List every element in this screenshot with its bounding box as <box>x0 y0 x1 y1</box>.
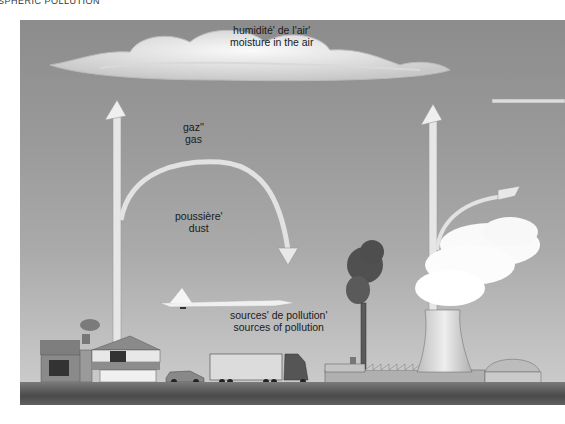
gas-label: gaz'' gas <box>183 121 204 145</box>
ground <box>20 382 565 405</box>
dust-label-fr: poussière' <box>175 210 223 222</box>
dome-building <box>485 359 541 384</box>
truck <box>210 354 308 385</box>
house-smoke <box>80 319 100 331</box>
page-title: SPHERIC POLLUTION <box>0 0 100 6</box>
house <box>40 317 160 382</box>
gas-label-fr: gaz'' <box>183 121 204 133</box>
sources-label-en: sources of pollution <box>230 321 327 333</box>
sources-label-fr: sources' de pollution' <box>230 309 327 321</box>
moisture-label: humidité' de l'air' moisture in the air <box>230 24 313 48</box>
airplane <box>160 288 295 309</box>
dust-label: poussière' dust <box>175 210 223 234</box>
cooling-tower <box>417 310 472 372</box>
factory-chimney <box>346 240 384 373</box>
offscreen-arrow-icon <box>492 99 565 103</box>
diagram-illustration <box>20 20 565 405</box>
sources-label: sources' de pollution' sources of pollut… <box>230 309 327 333</box>
gas-label-en: gas <box>183 133 204 145</box>
moisture-label-fr: humidité' de l'air' <box>230 24 313 36</box>
upward-arrow-left-icon <box>105 100 126 375</box>
moisture-label-en: moisture in the air <box>230 36 313 48</box>
dust-label-en: dust <box>175 222 223 234</box>
pollution-diagram: humidité' de l'air' moisture in the air … <box>20 20 565 405</box>
